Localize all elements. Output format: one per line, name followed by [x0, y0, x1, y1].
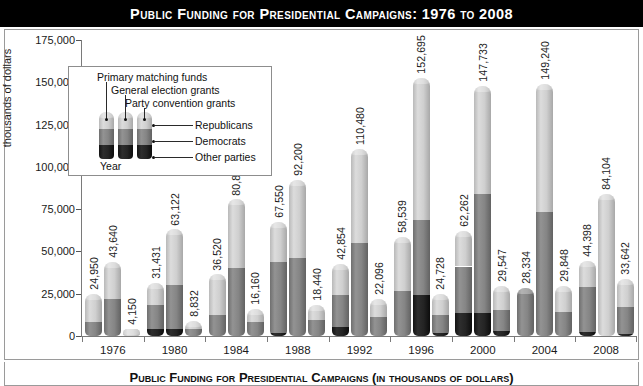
bar-value-label: 16,160 — [249, 272, 261, 305]
bar-segment-party-convention-grants — [617, 334, 634, 336]
bar-segment-primary-matching-funds — [370, 299, 387, 318]
bar-other-parties-1996[interactable] — [432, 294, 449, 336]
bar-group-2004: 28,334149,24029,848 — [517, 40, 572, 336]
bar-value-label: 22,096 — [373, 262, 385, 295]
bar-republicans-2000[interactable] — [455, 231, 472, 336]
bar-other-parties-2000[interactable] — [493, 286, 510, 336]
bar-republicans-1980[interactable] — [147, 283, 164, 336]
bar-segment-general-election-grants — [394, 291, 411, 336]
bar-segment-primary-matching-funds — [413, 78, 430, 221]
bar-other-parties-1984[interactable] — [247, 309, 264, 336]
bar-segment-primary-matching-funds — [104, 262, 121, 299]
bar-group-1988: 67,55092,20018,440 — [270, 40, 325, 336]
caption-text: Public Funding for Presidential Campaign… — [5, 370, 638, 385]
bar-democrats-2004[interactable] — [536, 84, 553, 336]
bar-segment-general-election-grants — [166, 285, 183, 329]
bar-value-label: 149,240 — [539, 41, 551, 80]
bar-value-label: 28,334 — [520, 251, 532, 284]
bar-other-parties-1992[interactable] — [370, 299, 387, 336]
bar-group-1996: 58,539152,69524,728 — [394, 40, 449, 336]
bar-democrats-1996[interactable] — [413, 78, 430, 336]
bar-value-label: 31,431 — [150, 246, 162, 279]
bar-democrats-2008[interactable] — [598, 194, 615, 336]
x-axis-tick-label-2000: 2000 — [470, 344, 496, 356]
legend-bar-segment — [118, 145, 133, 159]
legend-segment-label-1: General election grants — [111, 84, 220, 96]
bar-segment-primary-matching-funds — [166, 229, 183, 285]
bar-segment-primary-matching-funds — [147, 283, 164, 305]
bar-segment-primary-matching-funds — [493, 286, 510, 310]
legend-x-axis-label: Year — [100, 160, 121, 172]
bar-segment-primary-matching-funds — [289, 180, 306, 258]
bar-segment-general-election-grants — [289, 258, 306, 336]
bar-republicans-2008[interactable] — [579, 261, 596, 336]
x-axis-tick-label-2008: 2008 — [593, 344, 619, 356]
bar-segment-general-election-grants — [308, 320, 325, 336]
plot-frame: thousands of dollars 025,00050,00075,000… — [4, 29, 639, 360]
chart-title-banner: Public Funding for Presidential Campaign… — [0, 0, 643, 27]
bar-group-2008: 44,39884,10433,642 — [579, 40, 634, 336]
bar-segment-party-convention-grants — [413, 295, 430, 336]
bar-value-label: 33,642 — [619, 242, 631, 275]
bar-segment-general-election-grants — [228, 268, 245, 336]
bar-segment-general-election-grants — [579, 287, 596, 332]
bar-segment-general-election-grants — [270, 262, 287, 333]
bar-value-label: 110,480 — [354, 107, 366, 145]
bar-other-parties-1980[interactable] — [185, 321, 202, 336]
bar-segment-party-convention-grants — [332, 327, 349, 336]
x-axis-tick-mark — [390, 337, 391, 342]
bar-segment-general-election-grants — [517, 288, 534, 336]
bar-republicans-1988[interactable] — [270, 222, 287, 336]
bar-segment-primary-matching-funds — [579, 261, 596, 287]
bar-democrats-1984[interactable] — [228, 199, 245, 336]
bar-democrats-1992[interactable] — [351, 149, 368, 336]
bar-segment-primary-matching-funds — [536, 84, 553, 213]
bar-democrats-1988[interactable] — [289, 180, 306, 336]
bar-segment-party-convention-grants — [270, 333, 287, 336]
bar-segment-general-election-grants — [247, 322, 264, 336]
bar-segment-general-election-grants — [455, 267, 472, 314]
bar-group-1992: 42,854110,48022,096 — [332, 40, 387, 336]
bar-segment-general-election-grants — [209, 315, 226, 336]
bar-value-label: 58,539 — [396, 200, 408, 233]
bar-republicans-1992[interactable] — [332, 264, 349, 336]
bar-other-parties-2004[interactable] — [555, 286, 572, 336]
bar-democrats-1976[interactable] — [104, 262, 121, 336]
bar-value-label: 92,200 — [292, 143, 304, 176]
bar-democrats-1980[interactable] — [166, 229, 183, 336]
bar-segment-general-election-grants — [474, 194, 491, 313]
y-axis-tick-label: 175,000 — [35, 34, 75, 46]
bar-democrats-2000[interactable] — [474, 86, 491, 336]
bar-segment-general-election-grants — [351, 243, 368, 336]
legend-segment-label-2: Party convention grants — [125, 97, 235, 109]
bar-segment-general-election-grants — [370, 317, 387, 336]
bar-other-parties-2008[interactable] — [617, 279, 634, 336]
x-axis-tick-label-1992: 1992 — [347, 344, 373, 356]
bar-republicans-1984[interactable] — [209, 274, 226, 336]
bar-segment-party-convention-grants — [455, 313, 472, 336]
bar-segment-primary-matching-funds — [555, 286, 572, 312]
x-axis-tick-label-1984: 1984 — [223, 344, 249, 356]
bar-value-label: 84,104 — [600, 157, 612, 190]
bar-segment-party-convention-grants — [579, 332, 596, 336]
bar-republicans-2004[interactable] — [517, 288, 534, 336]
bar-republicans-1976[interactable] — [85, 294, 102, 336]
bar-other-parties-1976[interactable] — [123, 329, 140, 336]
bar-segment-primary-matching-funds — [617, 279, 634, 307]
bar-other-parties-1988[interactable] — [308, 305, 325, 336]
bar-value-label: 42,854 — [335, 227, 347, 260]
legend-bar-segment — [118, 129, 133, 145]
bar-value-label: 43,640 — [107, 225, 119, 258]
bar-segment-primary-matching-funds — [351, 149, 368, 243]
y-axis-title: thousands of dollars — [1, 18, 13, 178]
page-title: Public Funding for Presidential Campaign… — [130, 6, 513, 22]
bar-value-label: 36,520 — [211, 238, 223, 271]
bar-republicans-1996[interactable] — [394, 237, 411, 336]
bar-value-label: 44,398 — [581, 224, 593, 257]
bar-segment-primary-matching-funds — [123, 329, 140, 336]
y-axis-tick-label: 0 — [69, 330, 75, 342]
legend-bar-segment — [99, 129, 114, 145]
bar-group-2000: 62,262147,73329,547 — [455, 40, 510, 336]
x-axis-tick-label-1988: 1988 — [285, 344, 311, 356]
x-axis-tick-label-2004: 2004 — [532, 344, 558, 356]
